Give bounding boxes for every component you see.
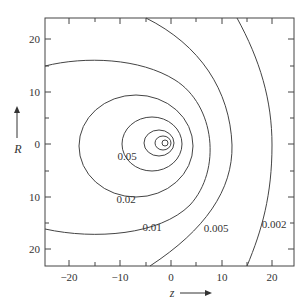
y-tick-label: 20	[29, 33, 41, 45]
y-ticks-left	[45, 39, 51, 249]
y-axis-arrow-icon	[14, 106, 20, 138]
contour-label: 0.002	[262, 218, 287, 230]
y-axis-title: R	[13, 142, 22, 156]
y-tick-label: 0	[35, 138, 41, 150]
x-ticks-bottom	[69, 260, 272, 266]
y-ticks-right	[288, 39, 294, 249]
y-tick-label: 10	[29, 191, 41, 203]
contour-label: 0.01	[142, 221, 161, 233]
x-axis-title: z	[169, 286, 175, 300]
contour-label: 0.02	[116, 193, 135, 205]
x-tick-label: 10	[217, 271, 229, 283]
contour-0.02	[79, 95, 193, 197]
x-tick-label: 0	[168, 271, 174, 283]
contour-0.05	[122, 117, 182, 171]
x-tick-label: −20	[60, 271, 78, 283]
y-tick-label: 10	[29, 86, 41, 98]
contour-chart: −20 −10 0 10 20 20 10 0 10 20 z R 0.05 0…	[0, 0, 305, 304]
plot-frame	[45, 18, 294, 266]
contour-inner-3	[144, 130, 174, 156]
x-axis-arrow-icon	[180, 290, 212, 296]
x-tick-label: 20	[267, 271, 279, 283]
contour-inner-2	[155, 136, 171, 150]
x-tick-label: −10	[111, 271, 129, 283]
contour-inner-1	[162, 140, 168, 146]
y-tick-label: 20	[29, 243, 41, 255]
contour-0.01	[45, 60, 210, 234]
contour-label: 0.05	[117, 150, 137, 162]
x-ticks-top	[69, 18, 272, 24]
contour-label: 0.005	[204, 222, 229, 234]
